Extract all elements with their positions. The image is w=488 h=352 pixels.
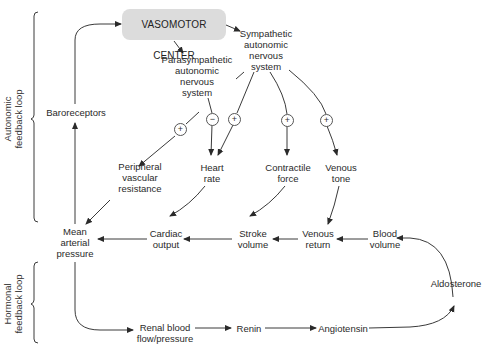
angiotensin-node: Angiotensin xyxy=(316,323,370,334)
contractile-force-node: Contractile force xyxy=(258,162,318,184)
hormonal-feedback-loop-label: Hormonal feedback loop xyxy=(2,264,26,344)
plus-sign-icon-pvr: + xyxy=(174,123,187,136)
blood-volume-node: Blood volume xyxy=(364,228,406,250)
plus-sign-icon-venous-tone: + xyxy=(320,114,333,127)
heart-rate-node: Heart rate xyxy=(192,162,232,184)
parasympathetic-nervous-system-node: Parasympathetic autonomic nervous system xyxy=(157,54,237,98)
diagram-canvas: Autonomic feedback loop Hormonal feedbac… xyxy=(0,0,488,352)
vasomotor-center-node: VASOMOTOR CENTER xyxy=(122,9,226,40)
plus-sign-icon-heart-rate: + xyxy=(228,113,241,126)
minus-sign-icon-heart-rate: − xyxy=(206,113,219,126)
renin-node: Renin xyxy=(232,323,266,334)
plus-sign-icon-contractile-force: + xyxy=(281,114,294,127)
cardiac-output-node: Cardiac output xyxy=(144,228,188,250)
renal-blood-flow-node: Renal blood flow/pressure xyxy=(133,322,197,344)
aldosterone-node: Aldosterone xyxy=(425,278,487,289)
autonomic-feedback-loop-label: Autonomic feedback loop xyxy=(2,79,26,159)
venous-return-node: Venous return xyxy=(296,228,340,250)
stroke-volume-node: Stroke volume xyxy=(230,228,276,250)
peripheral-vascular-resistance-node: Peripheral vascular resistance xyxy=(108,161,172,194)
sympathetic-nervous-system-node: Sympathetic autonomic nervous system xyxy=(226,28,306,72)
baroreceptors-node: Baroreceptors xyxy=(44,107,108,118)
mean-arterial-pressure-node: Mean arterial pressure xyxy=(50,226,100,259)
venous-tone-node: Venous tone xyxy=(318,162,364,184)
